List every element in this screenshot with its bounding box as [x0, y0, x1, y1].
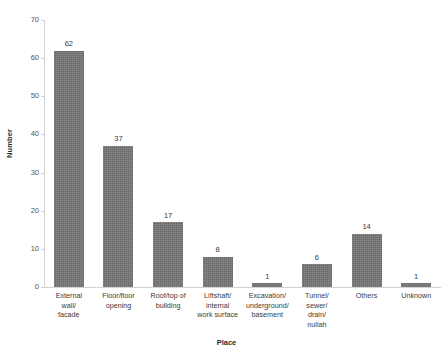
x-axis-category-label: Floor/flooropening — [94, 291, 144, 310]
y-axis-title: Number — [2, 0, 16, 287]
bar-value-label: 37 — [114, 135, 122, 143]
x-axis-category-label: Roof/top ofbuilding — [143, 291, 193, 310]
x-axis-category-label-line: sewer/ — [292, 301, 342, 311]
y-axis-tick-label: 10 — [0, 245, 39, 253]
bar-group[interactable]: 6 — [292, 20, 342, 287]
y-axis-tick-label: 0 — [0, 283, 39, 291]
y-axis-tick-label: 50 — [0, 93, 39, 101]
x-axis-category-label-line: Others — [342, 291, 392, 301]
bar-group[interactable]: 62 — [44, 20, 94, 287]
x-axis-title-text: Place — [217, 338, 237, 347]
x-axis-category-label-line: basement — [243, 310, 293, 320]
x-axis-category-label: Unknown — [391, 291, 441, 301]
bar-value-label: 6 — [315, 254, 319, 262]
bar-group[interactable]: 17 — [143, 20, 193, 287]
bar-value-label: 17 — [164, 212, 172, 220]
y-axis-tick-mark — [41, 287, 44, 288]
x-axis-category-label-line: building — [143, 301, 193, 311]
x-axis-line — [44, 287, 441, 288]
x-axis-category-label-line: Unknown — [391, 291, 441, 301]
bar-group[interactable]: 14 — [342, 20, 392, 287]
bar[interactable] — [252, 283, 282, 287]
x-axis-category-label: Externalwall/facade — [44, 291, 94, 320]
bar[interactable] — [401, 283, 431, 287]
plot-area: 623717816141 — [44, 20, 441, 287]
y-axis-tick-label: 70 — [0, 16, 39, 24]
x-axis-category-label-line: Excavation/ — [243, 291, 293, 301]
bar-group[interactable]: 1 — [391, 20, 441, 287]
bar-value-label: 8 — [216, 246, 220, 254]
x-axis-category-label-line: Tunnel/ — [292, 291, 342, 301]
x-axis-labels: Externalwall/facadeFloor/flooropeningRoo… — [44, 291, 441, 343]
bar-value-label: 62 — [65, 40, 73, 48]
y-axis-tick-label: 60 — [0, 54, 39, 62]
x-axis-category-label-line: Floor/floor — [94, 291, 144, 301]
x-axis-category-label: Excavation/underground/basement — [243, 291, 293, 320]
x-axis-category-label: Others — [342, 291, 392, 301]
bar[interactable] — [302, 264, 332, 287]
y-axis-tick-label: 40 — [0, 131, 39, 139]
bar-value-label: 1 — [265, 273, 269, 281]
bar[interactable] — [54, 51, 84, 287]
bar[interactable] — [352, 234, 382, 287]
x-axis-category-label: Tunnel/sewer/drain/nullah — [292, 291, 342, 329]
bar-group[interactable]: 1 — [243, 20, 293, 287]
x-axis-category-label-line: drain/ — [292, 310, 342, 320]
x-axis-category-label-line: Roof/top of — [143, 291, 193, 301]
x-axis-category-label-line: facade — [44, 310, 94, 320]
bar-value-label: 1 — [414, 273, 418, 281]
bar-chart: Number 010203040506070 623717816141 Exte… — [0, 0, 445, 359]
x-axis-category-label-line: External — [44, 291, 94, 301]
x-axis-category-label-line: wall/ — [44, 301, 94, 311]
bar-value-label: 14 — [362, 223, 370, 231]
bar[interactable] — [153, 222, 183, 287]
x-axis-category-label-line: internal — [193, 301, 243, 311]
bar[interactable] — [203, 257, 233, 288]
x-axis-category-label-line: underground/ — [243, 301, 293, 311]
x-axis-category-label-line: nullah — [292, 320, 342, 330]
x-axis-category-label-line: work surface — [193, 310, 243, 320]
bar-group[interactable]: 37 — [94, 20, 144, 287]
x-axis-category-label: Liftshaft/internalwork surface — [193, 291, 243, 320]
x-axis-title: Place — [0, 338, 445, 347]
bar[interactable] — [103, 146, 133, 287]
x-axis-category-label-line: opening — [94, 301, 144, 311]
y-axis-tick-label: 20 — [0, 207, 39, 215]
y-axis-tick-label: 30 — [0, 169, 39, 177]
bar-group[interactable]: 8 — [193, 20, 243, 287]
x-axis-category-label-line: Liftshaft/ — [193, 291, 243, 301]
